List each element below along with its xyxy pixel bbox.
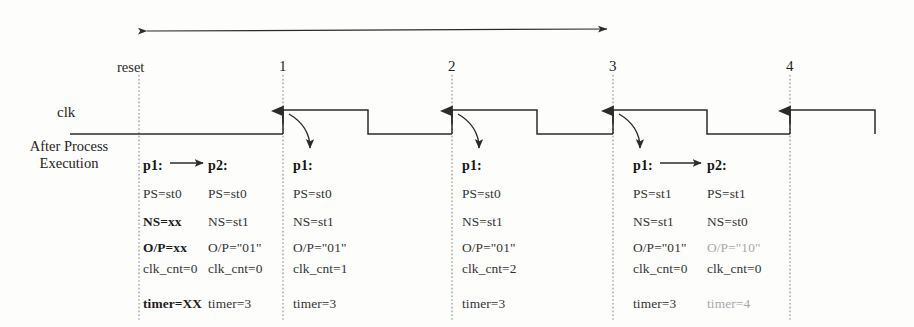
timer-value: timer=3 [462, 296, 505, 312]
ps-value: PS=st1 [707, 186, 746, 202]
clk-cnt-value: clk_cnt=0 [633, 261, 688, 277]
ns-value: NS=st1 [633, 214, 674, 230]
ps-value: PS=st0 [462, 186, 501, 202]
marker-label-1: 1 [279, 58, 287, 75]
ns-value: NS=xx [143, 214, 182, 230]
process-label: p1: [143, 158, 163, 174]
op-value: O/P="01" [208, 240, 262, 256]
ps-value: PS=st0 [208, 186, 247, 202]
edge-to-process-arrows [289, 114, 640, 148]
op-value: O/P="01" [633, 240, 687, 256]
ns-value: NS=st1 [208, 214, 249, 230]
ps-value: PS=st0 [143, 186, 182, 202]
clk-cnt-value: clk_cnt=1 [293, 261, 348, 277]
marker-label-2: 2 [448, 58, 456, 75]
ps-value: PS=st0 [293, 186, 332, 202]
clk-waveform [70, 110, 875, 134]
op-value: O/P="10" [707, 240, 761, 256]
ns-value: NS=st1 [293, 214, 334, 230]
marker-label-3: 3 [609, 58, 617, 75]
clk-cnt-value: clk_cnt=0 [208, 261, 263, 277]
process-label: p2: [208, 158, 228, 174]
timer-value: timer=3 [293, 296, 336, 312]
clk-label: clk [57, 104, 75, 121]
timer-value: timer=XX [143, 296, 202, 312]
process-label: p1: [462, 158, 482, 174]
clk-cnt-value: clk_cnt=0 [707, 261, 762, 277]
clk-cnt-value: clk_cnt=0 [143, 261, 198, 277]
clk-cnt-value: clk_cnt=2 [462, 261, 517, 277]
ps-value: PS=st1 [633, 186, 672, 202]
reset-label: reset [117, 60, 144, 76]
span-arrow [147, 29, 607, 31]
timer-value: timer=4 [707, 296, 750, 312]
marker-label-4: 4 [786, 58, 794, 75]
process-label: p1: [633, 158, 653, 174]
timer-value: timer=3 [208, 296, 251, 312]
ns-value: NS=st1 [462, 214, 503, 230]
ns-value: NS=st0 [707, 214, 748, 230]
op-value: O/P="01" [293, 240, 347, 256]
op-value: O/P="01" [462, 240, 516, 256]
after-process-label: After Process Execution [14, 138, 124, 172]
waveform-canvas [0, 0, 914, 327]
timer-value: timer=3 [633, 296, 676, 312]
process-label: p2: [707, 158, 727, 174]
timing-diagram: clk After Process Execution reset 1 2 3 … [0, 0, 914, 327]
op-value: O/P=xx [143, 240, 187, 256]
process-label: p1: [293, 158, 313, 174]
